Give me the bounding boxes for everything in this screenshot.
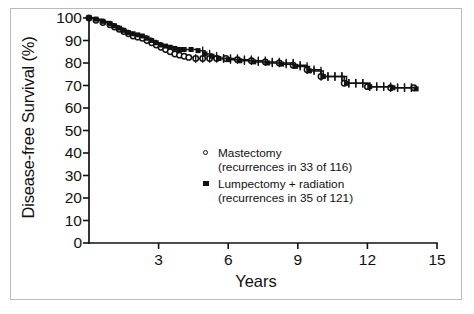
data-point-marker <box>126 30 131 35</box>
series-layer <box>86 15 418 92</box>
data-point-marker <box>149 38 154 43</box>
data-point-marker <box>87 16 92 21</box>
data-point-marker <box>145 36 150 41</box>
series-mastectomy <box>86 15 416 92</box>
y-tick-label-10: 10 <box>36 212 82 230</box>
x-axis-tick-marks <box>159 243 437 249</box>
x-tick-label-15: 15 <box>417 251 457 269</box>
data-point-marker <box>163 44 168 49</box>
series-lumpectomy <box>87 16 419 92</box>
y-tick-label-90: 90 <box>36 32 82 50</box>
data-point-marker <box>196 48 201 53</box>
data-point-marker <box>107 21 112 26</box>
y-tick-label-30: 30 <box>36 167 82 185</box>
x-tick-label-9: 9 <box>278 251 318 269</box>
legend-label-mastectomy: Mastectomy <box>218 146 282 160</box>
data-point-marker <box>189 47 194 52</box>
x-tick-label-6: 6 <box>208 251 248 269</box>
y-axis-tick-marks <box>83 18 89 243</box>
y-tick-label-50: 50 <box>36 122 82 140</box>
x-tick-label-12: 12 <box>347 251 387 269</box>
data-point-marker <box>135 32 140 37</box>
data-point-marker <box>117 26 122 31</box>
data-point-marker <box>177 47 182 52</box>
data-point-marker <box>121 28 126 33</box>
legend-label-lumpectomy: Lumpectomy + radiation <box>218 177 344 191</box>
y-tick-label-100: 100 <box>36 9 82 27</box>
data-point-marker <box>140 34 145 39</box>
legend-item-lumpectomy: Lumpectomy + radiation <box>202 177 353 191</box>
data-point-marker <box>182 47 187 52</box>
figure-container: Disease-free Survival (%) Years 01020304… <box>0 0 474 314</box>
data-point-marker <box>172 46 177 51</box>
data-point-marker <box>131 31 136 36</box>
data-point-marker <box>186 55 191 60</box>
data-point-marker <box>168 45 173 50</box>
x-tick-label-3: 3 <box>139 251 179 269</box>
y-tick-label-70: 70 <box>36 77 82 95</box>
legend-item-mastectomy: Mastectomy <box>202 146 353 160</box>
data-point-marker <box>93 17 98 22</box>
y-tick-label-60: 60 <box>36 99 82 117</box>
x-axis-title: Years <box>186 272 326 291</box>
legend-sub-mastectomy: (recurrences in 33 of 116) <box>202 160 353 174</box>
data-point-marker <box>154 40 159 45</box>
data-point-marker <box>100 19 105 24</box>
y-tick-label-20: 20 <box>36 189 82 207</box>
y-axis-title: Disease-free Survival (%) <box>19 8 38 248</box>
y-tick-label-80: 80 <box>36 54 82 72</box>
legend-sub-lumpectomy: (recurrences in 35 of 121) <box>202 191 353 205</box>
axis-lines <box>89 18 437 243</box>
data-point-marker <box>158 43 163 48</box>
data-point-marker <box>112 23 117 28</box>
y-tick-label-40: 40 <box>36 144 82 162</box>
data-point-marker <box>414 86 419 91</box>
chart-legend: Mastectomy (recurrences in 33 of 116) Lu… <box>202 146 353 206</box>
open-circle-marker-icon <box>203 150 208 155</box>
filled-square-marker-icon <box>203 181 209 187</box>
y-tick-label-0: 0 <box>36 234 82 252</box>
